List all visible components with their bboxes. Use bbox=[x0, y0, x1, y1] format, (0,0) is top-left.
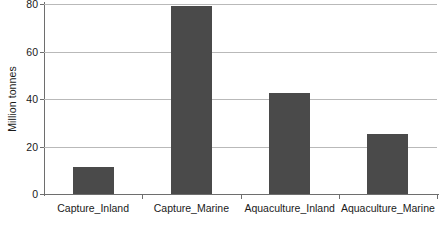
gridline bbox=[44, 52, 437, 53]
y-axis-tick-label: 20 bbox=[18, 141, 38, 153]
x-axis-tick-labels: Capture_InlandCapture_MarineAquaculture_… bbox=[0, 202, 446, 224]
x-axis-tick-label: Aquaculture_Marine bbox=[341, 202, 435, 214]
y-axis-tick-labels: 020406080 bbox=[18, 0, 38, 227]
y-axis-tick-label: 0 bbox=[18, 188, 38, 200]
plot-area bbox=[44, 4, 437, 194]
x-axis-tick-label: Aquaculture_Inland bbox=[244, 202, 335, 214]
x-axis-tick-label: Capture_Inland bbox=[57, 202, 129, 214]
bar-chart: Million tonnes 020406080 Capture_InlandC… bbox=[0, 0, 446, 227]
x-axis-tick-label: Capture_Marine bbox=[154, 202, 229, 214]
x-axis-tick-mark bbox=[241, 194, 242, 199]
y-axis-tick-label: 60 bbox=[18, 46, 38, 58]
bar bbox=[269, 93, 310, 194]
gridline bbox=[44, 4, 437, 5]
gridline bbox=[44, 99, 437, 100]
bar bbox=[367, 134, 408, 194]
x-axis-line bbox=[40, 194, 439, 195]
bar bbox=[73, 167, 114, 194]
bar bbox=[171, 6, 212, 194]
x-axis-tick-mark bbox=[339, 194, 340, 199]
x-axis-tick-mark bbox=[142, 194, 143, 199]
y-axis-tick-label: 40 bbox=[18, 93, 38, 105]
x-axis-tick-mark bbox=[437, 194, 438, 199]
y-axis-tick-label: 80 bbox=[18, 0, 38, 10]
